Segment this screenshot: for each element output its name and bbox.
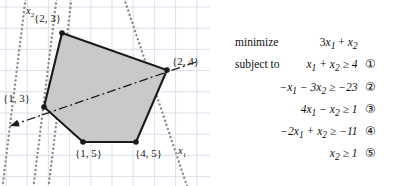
vertex-label: {4, 5}: [135, 148, 162, 159]
constraint-row: 4x1 − x2 ≥ 1 ③: [235, 100, 384, 122]
x-axis-label: x1: [178, 146, 186, 159]
vertex-dot: [41, 104, 47, 110]
feasible-region-figure: {2, 3}{2, 4}{1, 3}{1, 5}{4, 5} x2 x1: [0, 0, 210, 186]
subject-to-keyword: subject to: [235, 55, 279, 77]
blank-keyword-cell: [235, 144, 279, 166]
vertex-label: {1, 5}: [75, 148, 102, 159]
constraint-tag-5: ⑤: [358, 144, 384, 166]
vertex-label: {2, 4}: [172, 56, 199, 67]
constraint-tag-1: ①: [358, 55, 384, 77]
constraint-row: x2 ≥ 1 ⑤: [235, 144, 384, 166]
objective-row: minimize 3x1 + x2: [235, 33, 384, 55]
vertex-dot: [164, 67, 170, 73]
blank-keyword-cell: [235, 100, 279, 122]
vertex-dot: [133, 139, 139, 145]
constraint-tag-2: ②: [358, 78, 384, 100]
problem-table: minimize 3x1 + x2 subject to x1 + x2 ≥ 4…: [235, 33, 384, 167]
minimize-keyword: minimize: [235, 33, 279, 55]
constraint-row: −2x1 + x2 ≥ −11 ④: [235, 122, 384, 144]
constraint-row: subject to x1 + x2 ≥ 4 ①: [235, 55, 384, 77]
constraint-row: −x1 − 3x2 ≥ −23 ②: [235, 78, 384, 100]
vertex-label: {1, 3}: [3, 93, 30, 104]
objective-tag: [358, 33, 384, 55]
vertex-dot: [80, 139, 86, 145]
constraint-expression-5: x2 ≥ 1: [279, 144, 357, 166]
constraint-tag-3: ③: [358, 100, 384, 122]
constraint-expression-4: −2x1 + x2 ≥ −11: [279, 122, 357, 144]
y-axis-label: x2: [26, 6, 34, 19]
objective-expression: 3x1 + x2: [279, 33, 357, 55]
vertex-dot: [59, 30, 65, 36]
constraint-expression-3: 4x1 − x2 ≥ 1: [279, 100, 357, 122]
blank-keyword-cell: [235, 78, 279, 100]
linear-program-statement: minimize 3x1 + x2 subject to x1 + x2 ≥ 4…: [212, 0, 414, 186]
figure-and-problem-page: {2, 3}{2, 4}{1, 3}{1, 5}{4, 5} x2 x1 min…: [0, 0, 414, 186]
constraint-expression-1: x1 + x2 ≥ 4: [279, 55, 357, 77]
constraint-tag-4: ④: [358, 122, 384, 144]
vertex-label: {2, 3}: [34, 13, 61, 24]
constraint-expression-2: −x1 − 3x2 ≥ −23: [279, 78, 357, 100]
blank-keyword-cell: [235, 122, 279, 144]
